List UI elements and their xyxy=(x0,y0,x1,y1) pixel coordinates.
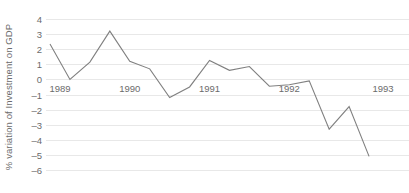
y-axis-tick-labels: 43210–1–2–3–4–5–6 xyxy=(16,0,44,193)
y-axis-tick-label: –1 xyxy=(31,89,42,100)
x-axis-tick-label: 1990 xyxy=(119,83,140,94)
y-axis-tick-label: –4 xyxy=(31,134,42,145)
y-axis-title-label: % variation of Investment on GDP xyxy=(3,23,14,169)
y-axis-tick-label: 0 xyxy=(37,74,42,85)
x-axis-tick-label: 1991 xyxy=(199,83,220,94)
x-axis-tick-label: 1989 xyxy=(49,83,70,94)
y-axis-tick-label: 4 xyxy=(37,14,42,25)
x-axis-tick-label: 1993 xyxy=(372,83,393,94)
y-axis-tick-label: –6 xyxy=(31,165,42,176)
y-axis-tick-label: –3 xyxy=(31,119,42,130)
line-chart: % variation of Investment on GDP 43210–1… xyxy=(0,0,409,193)
y-axis-tick-label: –2 xyxy=(31,104,42,115)
plot-area: 19891990199119921993 xyxy=(46,0,409,193)
y-axis-tick-label: 3 xyxy=(37,29,42,40)
x-axis-tick-labels: 19891990199119921993 xyxy=(46,0,409,193)
y-axis-title: % variation of Investment on GDP xyxy=(0,0,16,193)
y-axis-tick-label: –5 xyxy=(31,149,42,160)
x-axis-tick-label: 1992 xyxy=(279,83,300,94)
y-axis-tick-label: 2 xyxy=(37,44,42,55)
y-axis-tick-label: 1 xyxy=(37,59,42,70)
